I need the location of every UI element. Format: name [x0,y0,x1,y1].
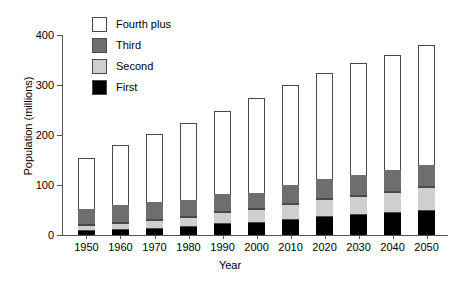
legend-item-first[interactable]: First [92,77,242,97]
legend-swatch-icon [92,80,107,95]
segment-second-2030 [350,196,367,216]
x-axis-tick-label: 2040 [380,241,404,253]
segment-first-2020 [316,217,333,236]
legend-label: Fourth plus [116,18,171,30]
y-axis-tick-label: 300 [36,79,54,91]
legend-item-second[interactable]: Second [92,56,242,76]
y-axis-tick-mark [57,235,62,236]
segment-second-2040 [384,192,401,214]
segment-third-1970 [146,202,163,221]
segment-first-2040 [384,213,401,235]
legend-label: Third [116,39,141,51]
x-axis-tick-label: 1980 [176,241,200,253]
x-axis-tick-mark [393,235,394,239]
legend-item-fourth-plus[interactable]: Fourth plus [92,14,242,34]
x-axis-tick-label: 1950 [74,241,98,253]
segment-third-1980 [180,200,197,217]
bar-1960[interactable] [112,145,129,235]
bar-1950[interactable] [78,158,95,236]
x-axis-tick-mark [257,235,258,239]
segment-second-2010 [282,204,299,220]
segment-first-2000 [248,223,265,236]
y-axis-tick-label: 200 [36,129,54,141]
bar-2020[interactable] [316,73,333,236]
x-axis-tick-label: 1960 [108,241,132,253]
legend-item-third[interactable]: Third [92,35,242,55]
x-axis-tick-mark [325,235,326,239]
x-axis-tick-mark [86,235,87,239]
bar-1990[interactable] [214,111,231,236]
segment-third-2010 [282,185,299,204]
x-axis-tick-label: 1970 [142,241,166,253]
x-axis-tick-mark [427,235,428,239]
x-axis-tick-label: 2020 [312,241,336,253]
segment-third-2040 [384,170,401,192]
y-axis-line [62,35,63,236]
x-axis-tick-label: 2030 [346,241,370,253]
bar-2000[interactable] [248,98,265,235]
y-axis-tick-mark [57,35,62,36]
segment-second-1960 [112,223,129,230]
x-axis-tick-label: 2050 [414,241,438,253]
segment-first-1990 [214,224,231,235]
y-axis-tick-label: 100 [36,179,54,191]
segment-third-1950 [78,209,95,226]
x-axis-tick-label: 2010 [278,241,302,253]
x-axis-tick-mark [120,235,121,239]
legend-swatch-icon [92,17,107,32]
bar-1970[interactable] [146,134,163,236]
segment-second-1990 [214,212,231,224]
segment-third-2020 [316,179,333,199]
segment-second-2020 [316,199,333,217]
x-axis-tick-mark [155,235,156,239]
x-axis-title: Year [0,259,460,271]
x-axis-tick-label: 1990 [210,241,234,253]
chart-legend: Fourth plusThirdSecondFirst [92,14,242,98]
segment-first-1980 [180,227,197,235]
segment-third-1960 [112,205,129,224]
legend-label: First [116,81,137,93]
y-axis-tick-label: 400 [36,29,54,41]
chart-figure: Population (millions) Year 0100200300400… [0,0,460,285]
segment-first-1970 [146,229,163,236]
legend-label: Second [116,60,153,72]
segment-third-2000 [248,193,265,210]
segment-second-1980 [180,217,197,228]
segment-second-2050 [418,187,435,211]
y-axis-tick-mark [57,85,62,86]
segment-first-2010 [282,220,299,235]
segment-third-2050 [418,165,435,187]
x-axis-tick-mark [291,235,292,239]
y-axis-tick-mark [57,135,62,136]
y-axis-title: Population (millions) [22,36,34,216]
x-axis-tick-mark [359,235,360,239]
bar-2050[interactable] [418,45,435,235]
bar-1980[interactable] [180,123,197,236]
segment-first-2030 [350,215,367,235]
bar-2040[interactable] [384,55,401,235]
legend-swatch-icon [92,38,107,53]
legend-swatch-icon [92,59,107,74]
segment-first-1960 [112,230,129,235]
x-axis-tick-mark [223,235,224,239]
segment-second-1970 [146,220,163,229]
segment-first-1950 [78,231,95,235]
segment-third-2030 [350,175,367,196]
y-axis-tick-label: 0 [48,229,54,241]
segment-second-2000 [248,209,265,223]
bar-2010[interactable] [282,85,299,235]
x-axis-tick-label: 2000 [244,241,268,253]
y-axis-tick-mark [57,185,62,186]
bar-2030[interactable] [350,63,367,236]
x-axis-tick-mark [189,235,190,239]
segment-first-2050 [418,211,435,236]
segment-third-1990 [214,194,231,212]
